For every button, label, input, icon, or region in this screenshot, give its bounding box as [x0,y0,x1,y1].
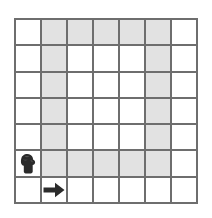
puzzle-canvas [0,0,212,218]
grid-cell-r0-c6[interactable] [172,20,198,46]
grid-cell-r0-c4[interactable] [120,20,146,46]
grid-cell-r2-c3[interactable] [94,73,120,99]
grid-cell-r3-c2[interactable] [68,99,94,125]
grid-cell-r6-c4[interactable] [120,178,146,204]
grid-cell-r6-c5[interactable] [146,178,172,204]
grid-cell-r5-c0[interactable] [16,151,42,177]
grid-cell-r6-c6[interactable] [172,178,198,204]
grid-cell-r6-c3[interactable] [94,178,120,204]
grid-cell-r0-c0[interactable] [16,20,42,46]
grid-cell-r0-c5[interactable] [146,20,172,46]
grid-cell-r5-c4[interactable] [120,151,146,177]
grid-cell-r5-c3[interactable] [94,151,120,177]
grid-cell-r2-c0[interactable] [16,73,42,99]
grid-cell-r1-c4[interactable] [120,46,146,72]
grid-cell-r1-c1[interactable] [42,46,68,72]
grid-cell-r3-c0[interactable] [16,99,42,125]
grid-cell-r5-c5[interactable] [146,151,172,177]
grid-cell-r5-c1[interactable] [42,151,68,177]
grid-cell-r0-c2[interactable] [68,20,94,46]
grid-cell-r0-c1[interactable] [42,20,68,46]
grid-cell-r1-c3[interactable] [94,46,120,72]
grid-cell-r6-c1[interactable] [42,178,68,204]
grid-cell-r4-c4[interactable] [120,125,146,151]
grid-cell-r4-c0[interactable] [16,125,42,151]
grid-cell-r3-c4[interactable] [120,99,146,125]
grid-cell-r0-c3[interactable] [94,20,120,46]
grid-cell-r3-c6[interactable] [172,99,198,125]
grid-cell-r2-c4[interactable] [120,73,146,99]
grid-cell-r3-c1[interactable] [42,99,68,125]
grid-cell-r6-c2[interactable] [68,178,94,204]
grid-cell-r2-c2[interactable] [68,73,94,99]
grid-cell-r2-c1[interactable] [42,73,68,99]
grid-cell-r1-c0[interactable] [16,46,42,72]
grid-cell-r4-c5[interactable] [146,125,172,151]
grid-cell-r4-c2[interactable] [68,125,94,151]
grid-cell-r1-c2[interactable] [68,46,94,72]
figure-icon [16,151,40,175]
grid-cell-r1-c5[interactable] [146,46,172,72]
grid-cell-r2-c6[interactable] [172,73,198,99]
grid-cell-r1-c6[interactable] [172,46,198,72]
grid-cell-r3-c3[interactable] [94,99,120,125]
grid-cell-r4-c1[interactable] [42,125,68,151]
arrow-right-icon [42,178,66,202]
puzzle-grid [14,18,198,204]
grid-cell-r6-c0[interactable] [16,178,42,204]
grid-cell-r2-c5[interactable] [146,73,172,99]
grid-cell-r5-c2[interactable] [68,151,94,177]
grid-cell-r4-c6[interactable] [172,125,198,151]
grid-cell-r3-c5[interactable] [146,99,172,125]
grid-cell-r4-c3[interactable] [94,125,120,151]
grid-cell-r5-c6[interactable] [172,151,198,177]
